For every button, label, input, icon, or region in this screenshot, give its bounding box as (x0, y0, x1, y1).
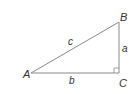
vertex-label-b: B (120, 11, 127, 23)
vertex-label-c: C (119, 77, 127, 89)
side-label-b: b (69, 75, 75, 86)
side-label-c: c (68, 36, 73, 47)
triangle-diagram: A B C c a b (0, 0, 138, 94)
side-label-a: a (122, 43, 128, 54)
right-angle-marker (114, 68, 119, 73)
triangle-abc (31, 22, 119, 73)
vertex-label-a: A (22, 68, 30, 80)
